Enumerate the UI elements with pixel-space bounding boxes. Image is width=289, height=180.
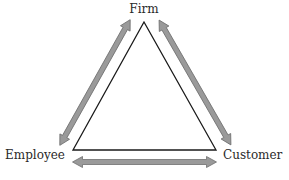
node-label-customer: Customer — [223, 149, 282, 161]
node-label-employee: Employee — [5, 149, 65, 161]
firm-employee-double-arrow-icon — [55, 17, 135, 148]
relationship-triangle-diagram: Firm Employee Customer — [0, 0, 289, 180]
node-label-firm: Firm — [129, 3, 158, 15]
employee-customer-double-arrow-icon — [73, 157, 217, 168]
firm-customer-double-arrow-icon — [154, 17, 235, 147]
